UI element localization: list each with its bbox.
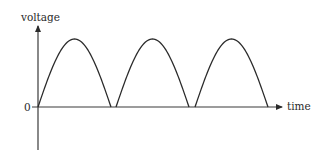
- waveform-hump: [195, 39, 268, 107]
- waveform-hump: [38, 39, 111, 107]
- origin-label: 0: [24, 101, 31, 113]
- x-axis-label: time: [287, 100, 311, 112]
- y-axis-label: voltage: [20, 11, 60, 23]
- voltage-time-diagram: voltage 0 time: [0, 0, 322, 155]
- waveform-hump: [116, 39, 189, 107]
- waveform: [38, 39, 268, 107]
